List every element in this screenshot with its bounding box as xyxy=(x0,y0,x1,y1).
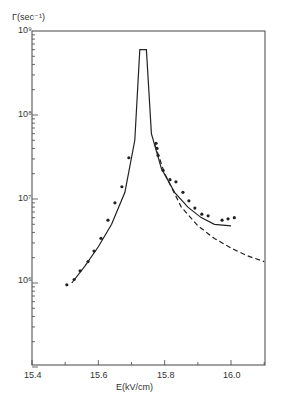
y-tick-1e6: 10⁶ xyxy=(18,275,32,285)
data-point xyxy=(181,191,184,194)
data-point xyxy=(233,216,236,219)
data-point xyxy=(207,214,210,217)
data-point xyxy=(106,219,109,222)
chart-plot xyxy=(0,0,281,398)
x-tick-15-6: 15.6 xyxy=(90,370,108,380)
data-point xyxy=(120,185,123,188)
data-point xyxy=(193,206,196,209)
data-point xyxy=(226,217,229,220)
y-axis-label: Γ(sec⁻¹) xyxy=(12,12,45,22)
x-tick-15-8: 15.8 xyxy=(157,370,175,380)
x-tick-15-4: 15.4 xyxy=(24,370,42,380)
data-point xyxy=(65,283,68,286)
data-point xyxy=(113,201,116,204)
x-axis-label: E(kV/cm) xyxy=(116,382,153,392)
data-point xyxy=(220,219,223,222)
dashed-curve xyxy=(155,144,265,262)
y-tick-1e7: 10⁷ xyxy=(18,193,31,203)
y-tick-1e9: 10⁹ xyxy=(18,25,32,35)
data-point xyxy=(200,213,203,216)
y-tick-1e8: 10⁸ xyxy=(18,109,32,119)
data-point xyxy=(127,156,130,159)
data-point xyxy=(174,180,177,183)
solid-curve xyxy=(72,50,231,283)
data-point xyxy=(187,199,190,202)
x-tick-16-0: 16.0 xyxy=(223,370,241,380)
data-point xyxy=(168,178,171,181)
